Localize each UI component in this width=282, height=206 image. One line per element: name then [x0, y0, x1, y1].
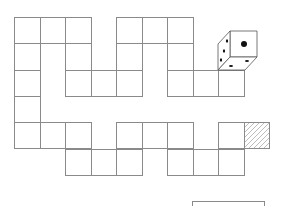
board-cell [40, 122, 67, 149]
board-cell [116, 70, 143, 97]
board-cell [116, 149, 143, 176]
board-cell [65, 122, 92, 149]
board-cell [167, 43, 194, 70]
board-cell [167, 17, 194, 44]
board-cell [65, 17, 92, 44]
board-cell [65, 149, 92, 176]
board-cell [14, 43, 41, 70]
board-cell [218, 149, 245, 176]
board-cell [142, 122, 169, 149]
board-cell [167, 122, 194, 149]
board-cell [142, 17, 169, 44]
hatched-cell [244, 122, 271, 149]
board-cell [116, 122, 143, 149]
board-cell [40, 17, 67, 44]
board-cell [167, 149, 194, 176]
board-cell [14, 122, 41, 149]
board-cell [167, 70, 194, 97]
answer-box [192, 201, 265, 206]
board-cell [91, 149, 118, 176]
board-cell [14, 70, 41, 97]
board-cell [65, 70, 92, 97]
board-cell [14, 96, 41, 123]
board-cell [116, 43, 143, 70]
board-cell [193, 149, 220, 176]
board-cell [65, 43, 92, 70]
board-cell [116, 17, 143, 44]
board-cell [91, 70, 118, 97]
board-cell [218, 122, 245, 149]
dice-icon [214, 28, 260, 74]
board-cell [14, 17, 41, 44]
